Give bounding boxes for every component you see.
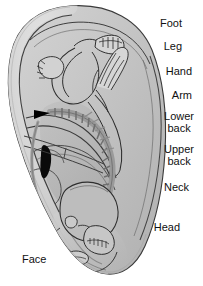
label-hand: Hand	[166, 66, 192, 78]
label-upper-back: Upper back	[164, 144, 194, 167]
label-head: Head	[154, 222, 180, 234]
label-neck: Neck	[164, 182, 189, 194]
label-lower-back: Lower back	[164, 111, 194, 134]
label-arm: Arm	[172, 90, 192, 102]
label-foot: Foot	[160, 18, 182, 30]
ear-reflexology-diagram: Foot Leg Hand Arm Lower back Upper back …	[0, 0, 203, 286]
label-leg: Leg	[164, 41, 182, 53]
label-face: Face	[22, 254, 46, 266]
